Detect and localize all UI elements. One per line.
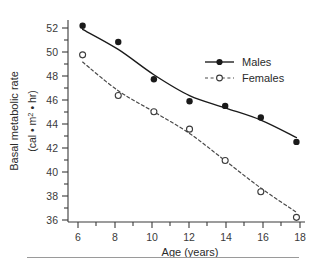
svg-text:(cal • m2 • hr): (cal • m2 • hr) (26, 90, 39, 152)
y-axis-units: (cal • m2 • hr) (26, 90, 39, 152)
legend-marker-males-filled-circle-icon (216, 59, 222, 65)
y-axis-tick-labels: 52 50 48 46 44 42 40 38 36 (46, 22, 58, 226)
y-tick-label: 48 (46, 70, 58, 82)
x-tick-label: 12 (183, 231, 195, 243)
x-tick-label: 16 (257, 231, 269, 243)
data-point (293, 139, 299, 145)
legend-marker-females-open-circle-icon (217, 75, 223, 81)
data-point (151, 76, 157, 82)
x-tick-label: 10 (146, 231, 158, 243)
data-point (258, 114, 264, 120)
data-point (258, 189, 264, 195)
basal-metabolic-rate-chart: 52 50 48 46 44 42 40 38 36 6 8 10 12 14 … (0, 0, 326, 269)
data-point (293, 214, 299, 220)
data-point (186, 98, 192, 104)
y-units-close: • hr) (26, 90, 38, 112)
y-tick-label: 52 (46, 22, 58, 34)
data-point (80, 52, 86, 58)
y-tick-label: 36 (46, 214, 58, 226)
footer-divider (27, 257, 299, 258)
data-point (79, 23, 85, 29)
y-tick-label: 42 (46, 142, 58, 154)
y-tick-label: 50 (46, 46, 58, 58)
data-point (222, 103, 228, 109)
y-tick-label: 46 (46, 94, 58, 106)
chart-background (0, 0, 326, 269)
data-point (115, 39, 121, 45)
x-tick-label: 8 (112, 231, 118, 243)
legend-label-males: Males (242, 56, 272, 68)
y-tick-label: 44 (46, 118, 58, 130)
data-point (187, 126, 193, 132)
data-point (222, 157, 228, 163)
y-axis-title: Basal metabolic rate (8, 71, 20, 171)
y-tick-label: 38 (46, 190, 58, 202)
x-tick-label: 6 (75, 231, 81, 243)
data-point (115, 92, 121, 98)
x-tick-label: 14 (220, 231, 232, 243)
y-units-open: (cal • m (26, 116, 38, 151)
legend-label-females: Females (242, 72, 285, 84)
data-point (151, 109, 157, 115)
x-tick-label: 18 (294, 231, 306, 243)
y-tick-label: 40 (46, 166, 58, 178)
